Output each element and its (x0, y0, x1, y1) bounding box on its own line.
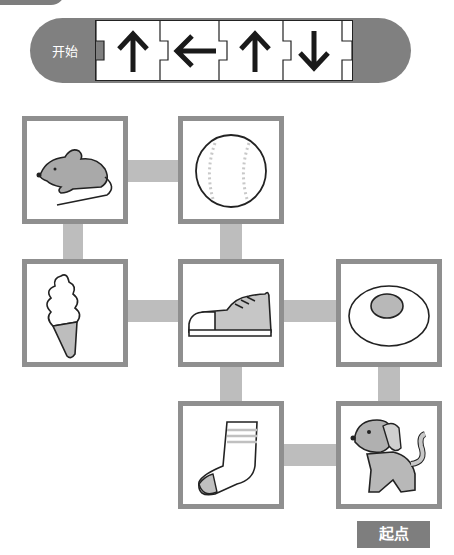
sequence-step-2 (168, 21, 218, 80)
start-point-tag: 起点 (357, 521, 430, 548)
corner-tab (0, 0, 65, 5)
sequence-step-3 (227, 21, 282, 80)
mouse-icon (27, 121, 123, 219)
cell-robot-dog[interactable] (336, 401, 442, 509)
sock-icon (183, 406, 279, 504)
fried-egg-icon (341, 264, 437, 362)
cell-baseball[interactable] (178, 116, 284, 224)
arrow-down-icon (291, 21, 341, 80)
connector-mouse-icecream (63, 224, 83, 259)
robot-dog-icon (341, 406, 437, 504)
arrow-up-icon (227, 21, 282, 80)
arrow-up-icon (108, 21, 158, 80)
connector-mouse-baseball (126, 160, 178, 182)
sequence-step-1 (108, 21, 158, 80)
start-label: 开始 (52, 41, 78, 60)
connector-sock-dog (284, 444, 336, 466)
cell-sock[interactable] (178, 401, 284, 509)
instruction-strip (95, 20, 353, 81)
ice-cream-icon (27, 264, 123, 362)
cell-fried-egg[interactable] (336, 259, 442, 367)
sequence-step-4 (291, 21, 341, 80)
connector-egg-dog (378, 367, 400, 401)
connector-sneaker-sock (220, 367, 242, 401)
connector-baseball-sneaker (220, 224, 242, 259)
sneaker-icon (183, 264, 279, 362)
baseball-icon (183, 121, 279, 219)
cell-sneaker[interactable] (178, 259, 284, 367)
cell-mouse[interactable] (22, 116, 128, 224)
arrow-left-icon (168, 21, 218, 80)
connector-icecream-sneaker (126, 300, 178, 322)
cell-ice-cream[interactable] (22, 259, 128, 367)
connector-sneaker-egg (284, 300, 336, 322)
